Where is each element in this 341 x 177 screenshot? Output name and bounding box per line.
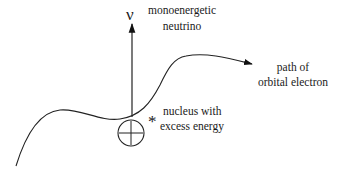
electron-label-line2: orbital electron [258,76,328,88]
neutrino-label-line1: monoenergetic [148,4,216,17]
neutrino-symbol: ν [126,5,134,24]
neutrino-emission-diagram: ν monoenergetic neutrino path of orbital… [0,0,341,177]
neutrino-label-line2: neutrino [163,20,202,32]
nucleus-label-line1: nucleus with [163,105,222,117]
nucleus-icon [118,120,144,146]
electron-label-line1: path of [277,61,309,74]
excited-state-marker: * [148,112,157,131]
nucleus-label-line2: excess energy [160,120,224,133]
